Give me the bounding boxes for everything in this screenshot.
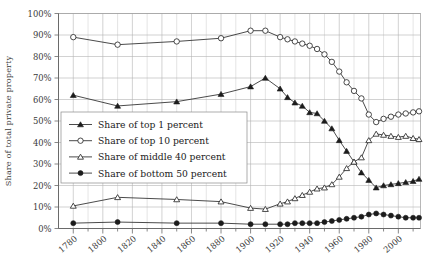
- marker-filled-triangle: [336, 138, 342, 143]
- marker-open-circle: [218, 36, 223, 41]
- legend-label: Share of top 10 percent: [98, 135, 209, 146]
- marker-open-triangle: [351, 159, 357, 164]
- series-line: [73, 31, 419, 122]
- marker-filled-circle: [352, 215, 357, 220]
- legend-layer: Share of top 1 percentShare of top 10 pe…: [61, 112, 247, 183]
- legend-label: Share of middle 40 percent: [98, 151, 226, 162]
- marker-open-circle: [292, 39, 297, 44]
- marker-filled-triangle: [358, 170, 364, 175]
- marker-open-circle: [416, 109, 421, 114]
- marker-open-circle: [351, 88, 356, 93]
- marker-filled-triangle: [299, 103, 305, 108]
- marker-open-circle: [78, 138, 83, 143]
- marker-filled-circle: [337, 217, 342, 222]
- marker-open-circle: [396, 112, 401, 117]
- x-tick-label: 1900: [234, 233, 257, 254]
- marker-open-triangle: [299, 192, 305, 197]
- marker-filled-circle: [219, 221, 224, 226]
- marker-open-circle: [403, 111, 408, 116]
- marker-filled-circle: [381, 212, 386, 217]
- marker-filled-circle: [307, 221, 312, 226]
- marker-open-triangle: [292, 196, 298, 201]
- marker-open-circle: [366, 112, 371, 117]
- y-axis-title: Share of total private property: [3, 56, 13, 187]
- marker-filled-circle: [263, 222, 268, 227]
- x-tick-label: 1820: [115, 233, 138, 254]
- marker-filled-circle: [285, 222, 290, 227]
- y-tick-label: 40%: [33, 138, 52, 148]
- marker-filled-circle: [248, 222, 253, 227]
- x-tick-label: 1860: [174, 233, 197, 254]
- x-tick-label: 1880: [204, 233, 227, 254]
- marker-open-circle: [307, 43, 312, 48]
- marker-open-triangle: [403, 133, 409, 138]
- marker-filled-circle: [300, 221, 305, 226]
- marker-filled-circle: [329, 218, 334, 223]
- marker-open-circle: [300, 41, 305, 46]
- axis-title-layer: Share of total private property: [3, 56, 13, 187]
- y-tick-label: 0%: [38, 224, 51, 234]
- marker-open-circle: [285, 37, 290, 42]
- marker-open-triangle: [358, 155, 364, 160]
- y-tick-label: 90%: [33, 30, 52, 40]
- marker-filled-triangle: [410, 178, 416, 183]
- y-tick-label: 10%: [33, 202, 52, 212]
- marker-filled-circle: [417, 215, 422, 220]
- y-tick-label: 30%: [33, 159, 52, 169]
- legend-label: Share of bottom 50 percent: [98, 168, 227, 179]
- marker-filled-circle: [322, 220, 327, 225]
- marker-open-circle: [381, 116, 386, 121]
- marker-open-triangle: [373, 131, 379, 136]
- x-tick-label: 2000: [381, 233, 404, 254]
- marker-open-circle: [322, 52, 327, 57]
- marker-open-circle: [115, 42, 120, 47]
- marker-filled-circle: [359, 214, 364, 219]
- marker-open-circle: [410, 110, 415, 115]
- marker-open-circle: [248, 28, 253, 33]
- marker-filled-circle: [396, 214, 401, 219]
- marker-filled-circle: [374, 211, 379, 216]
- x-tick-label: 1940: [293, 233, 316, 254]
- marker-filled-circle: [366, 212, 371, 217]
- marker-open-triangle: [285, 199, 291, 204]
- marker-filled-circle: [292, 221, 297, 226]
- marker-filled-circle: [174, 221, 179, 226]
- y-tick-label: 70%: [33, 73, 52, 83]
- marker-open-circle: [277, 34, 282, 39]
- marker-open-circle: [329, 59, 334, 64]
- marker-open-circle: [388, 114, 393, 119]
- marker-open-triangle: [307, 189, 313, 194]
- x-tick-label: 1840: [145, 233, 168, 254]
- marker-open-circle: [314, 46, 319, 51]
- x-tick-label: 1920: [263, 233, 286, 254]
- legend-label: Share of top 1 percent: [98, 119, 203, 130]
- marker-open-circle: [344, 80, 349, 85]
- x-tick-label: 1960: [322, 233, 345, 254]
- y-tick-label: 50%: [33, 116, 52, 126]
- marker-filled-circle: [78, 171, 83, 176]
- marker-filled-triangle: [416, 176, 422, 181]
- x-tick-label: 1780: [56, 233, 79, 254]
- x-tick-label: 1800: [86, 233, 109, 254]
- marker-filled-circle: [71, 221, 76, 226]
- marker-filled-circle: [388, 213, 393, 218]
- marker-open-circle: [373, 119, 378, 124]
- x-tick-label-layer: 1780180018201840186018801900192019401960…: [56, 233, 404, 254]
- y-tick-label-layer: 0%10%20%30%40%50%60%70%80%90%100%: [28, 9, 52, 234]
- y-tick-label: 60%: [33, 95, 52, 105]
- marker-filled-triangle: [248, 84, 254, 89]
- marker-open-circle: [71, 34, 76, 39]
- marker-filled-circle: [411, 215, 416, 220]
- marker-filled-circle: [315, 221, 320, 226]
- x-tick-label: 1980: [352, 233, 375, 254]
- marker-open-circle: [263, 28, 268, 33]
- y-tick-label: 80%: [33, 52, 52, 62]
- marker-filled-circle: [278, 222, 283, 227]
- marker-filled-triangle: [344, 148, 350, 153]
- marker-open-circle: [337, 69, 342, 74]
- marker-filled-circle: [344, 216, 349, 221]
- wealth-share-line-chart: 0%10%20%30%40%50%60%70%80%90%100% 178018…: [0, 0, 436, 275]
- marker-filled-circle: [403, 215, 408, 220]
- y-tick-label: 20%: [33, 181, 52, 191]
- marker-open-circle: [359, 96, 364, 101]
